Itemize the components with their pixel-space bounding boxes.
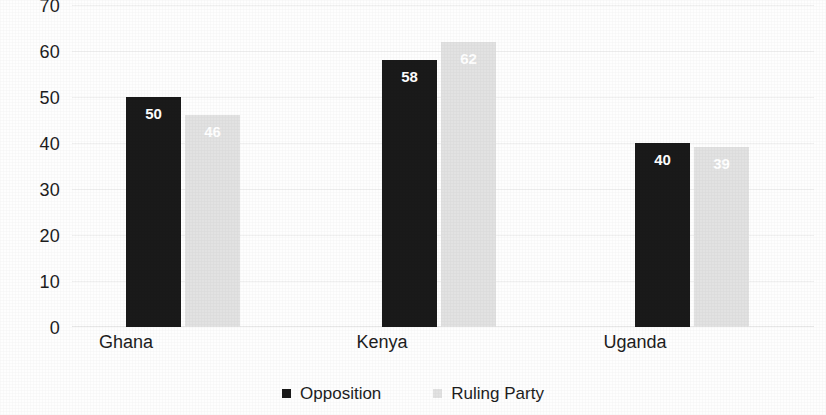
bar-value-label: 46 — [185, 124, 240, 139]
legend-swatch-icon — [282, 389, 291, 398]
legend-item-opposition[interactable]: Opposition — [282, 385, 381, 402]
bar-group-uganda: 40 39 — [635, 5, 749, 327]
y-tick-label: 10 — [14, 273, 60, 291]
x-tick-label-ghana: Ghana — [46, 333, 206, 351]
bar-value-label: 62 — [441, 51, 496, 66]
bar-fill — [382, 60, 437, 327]
bar-fill — [185, 115, 240, 327]
bar-value-label: 58 — [382, 69, 437, 84]
legend-item-ruling-party[interactable]: Ruling Party — [433, 385, 544, 402]
bar-value-label: 50 — [126, 106, 181, 121]
x-tick-label-kenya: Kenya — [302, 333, 462, 351]
bar-value-label: 40 — [635, 152, 690, 167]
legend-label: Ruling Party — [451, 385, 544, 402]
bar-ghana-opposition[interactable]: 50 — [126, 97, 181, 327]
chart-legend: Opposition Ruling Party — [0, 385, 826, 402]
bar-ghana-ruling-party[interactable]: 46 — [185, 115, 240, 327]
y-tick-label: 50 — [14, 89, 60, 107]
y-tick-label: 60 — [14, 43, 60, 61]
bar-fill — [635, 143, 690, 327]
plot-area: 50 46 58 62 40 — [72, 5, 814, 327]
bar-fill — [694, 147, 749, 327]
x-tick-label-uganda: Uganda — [555, 333, 715, 351]
y-tick-label: 20 — [14, 227, 60, 245]
bar-fill — [126, 97, 181, 327]
bar-uganda-opposition[interactable]: 40 — [635, 143, 690, 327]
bar-uganda-ruling-party[interactable]: 39 — [694, 147, 749, 327]
bar-fill — [441, 42, 496, 327]
bar-value-label: 39 — [694, 156, 749, 171]
bar-kenya-ruling-party[interactable]: 62 — [441, 42, 496, 327]
bar-chart: 70 60 50 40 30 20 10 0 50 46 — [0, 0, 826, 415]
bar-group-ghana: 50 46 — [126, 5, 240, 327]
y-tick-label: 30 — [14, 181, 60, 199]
bar-kenya-opposition[interactable]: 58 — [382, 60, 437, 327]
y-tick-label: 70 — [14, 0, 60, 15]
bar-group-kenya: 58 62 — [382, 5, 496, 327]
legend-swatch-icon — [433, 389, 442, 398]
legend-label: Opposition — [300, 385, 381, 402]
y-tick-label: 40 — [14, 135, 60, 153]
